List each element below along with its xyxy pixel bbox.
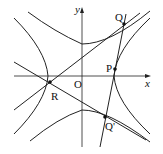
x-axis-label: x (145, 78, 150, 89)
y-axis (80, 7, 84, 147)
point-Qprime (103, 115, 107, 119)
point-P (113, 67, 117, 71)
point-Qprime-label: Q' (105, 121, 115, 132)
origin-label: O (74, 79, 82, 90)
tangent-line-RQ (14, 13, 140, 110)
point-R-label: R (51, 91, 58, 102)
point-P-label: P (106, 63, 112, 74)
point-Q-label: Q (115, 12, 123, 23)
point-R (48, 80, 52, 84)
diagram-svg (0, 0, 163, 154)
upper-hyperbola-branch (28, 11, 150, 44)
y-axis-label: y (75, 4, 80, 15)
tangent-line-RQprime (14, 62, 146, 140)
diagram-canvas: y x O R P Q Q' (0, 0, 163, 154)
